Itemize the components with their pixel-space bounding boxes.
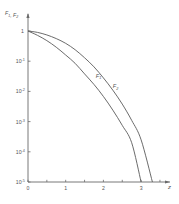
y-tick-label: 10-2 [16, 88, 25, 94]
x-axis-label: z [167, 184, 171, 190]
series-label-f2: F2 [113, 83, 119, 91]
x-tick-label: 1 [64, 185, 67, 191]
x-tick-label: 0 [27, 185, 30, 191]
labels: 110-110-210-310-410-50123zF1, F2F1F2 [5, 10, 171, 191]
y-tick-label: 1 [21, 28, 24, 34]
axes [26, 13, 170, 184]
x-tick-label: 2 [102, 185, 105, 191]
curve-f2 [28, 31, 152, 182]
y-axis-arrow-icon [26, 13, 29, 18]
y-tick-label: 10-5 [16, 179, 25, 185]
curves [28, 31, 152, 182]
y-tick-label: 10-1 [16, 58, 25, 64]
line-chart: 110-110-210-310-410-50123zF1, F2F1F2 [0, 0, 179, 204]
x-tick-label: 3 [140, 185, 143, 191]
y-tick-label: 10-3 [16, 119, 25, 125]
y-tick-label: 10-4 [16, 149, 25, 155]
y-axis-label: F1, F2 [5, 10, 18, 19]
